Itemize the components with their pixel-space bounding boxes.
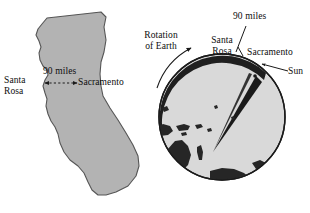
globe-distance-label: 90 miles — [233, 11, 266, 22]
globe-sacramento-marker — [253, 74, 257, 78]
california-map-shape — [36, 12, 139, 195]
globe-sacramento-label: Sacramento — [247, 47, 293, 58]
globe-sun-arrow — [262, 64, 288, 71]
globe-rotation-label: Rotation of Earth — [137, 30, 185, 51]
globe-santa-rosa-line1: Santa — [211, 35, 233, 45]
ca-distance-label: 90 miles — [43, 66, 76, 77]
globe-santa-rosa-label: Santa Rosa — [205, 35, 239, 56]
globe-sun-label: Sun — [288, 66, 303, 77]
ca-sacramento-label: Sacramento — [78, 77, 124, 88]
ca-santa-rosa-line2: Rosa — [4, 86, 23, 96]
globe-rotation-line2: of Earth — [145, 41, 177, 51]
globe-rotation-line1: Rotation — [144, 30, 178, 40]
ca-santa-rosa-label: Santa Rosa — [4, 75, 26, 96]
ca-santa-rosa-line1: Santa — [4, 75, 26, 85]
globe-santa-rosa-line2: Rosa — [212, 46, 231, 56]
figure-container: Santa Rosa 90 miles Sacramento Rotation … — [0, 0, 310, 213]
